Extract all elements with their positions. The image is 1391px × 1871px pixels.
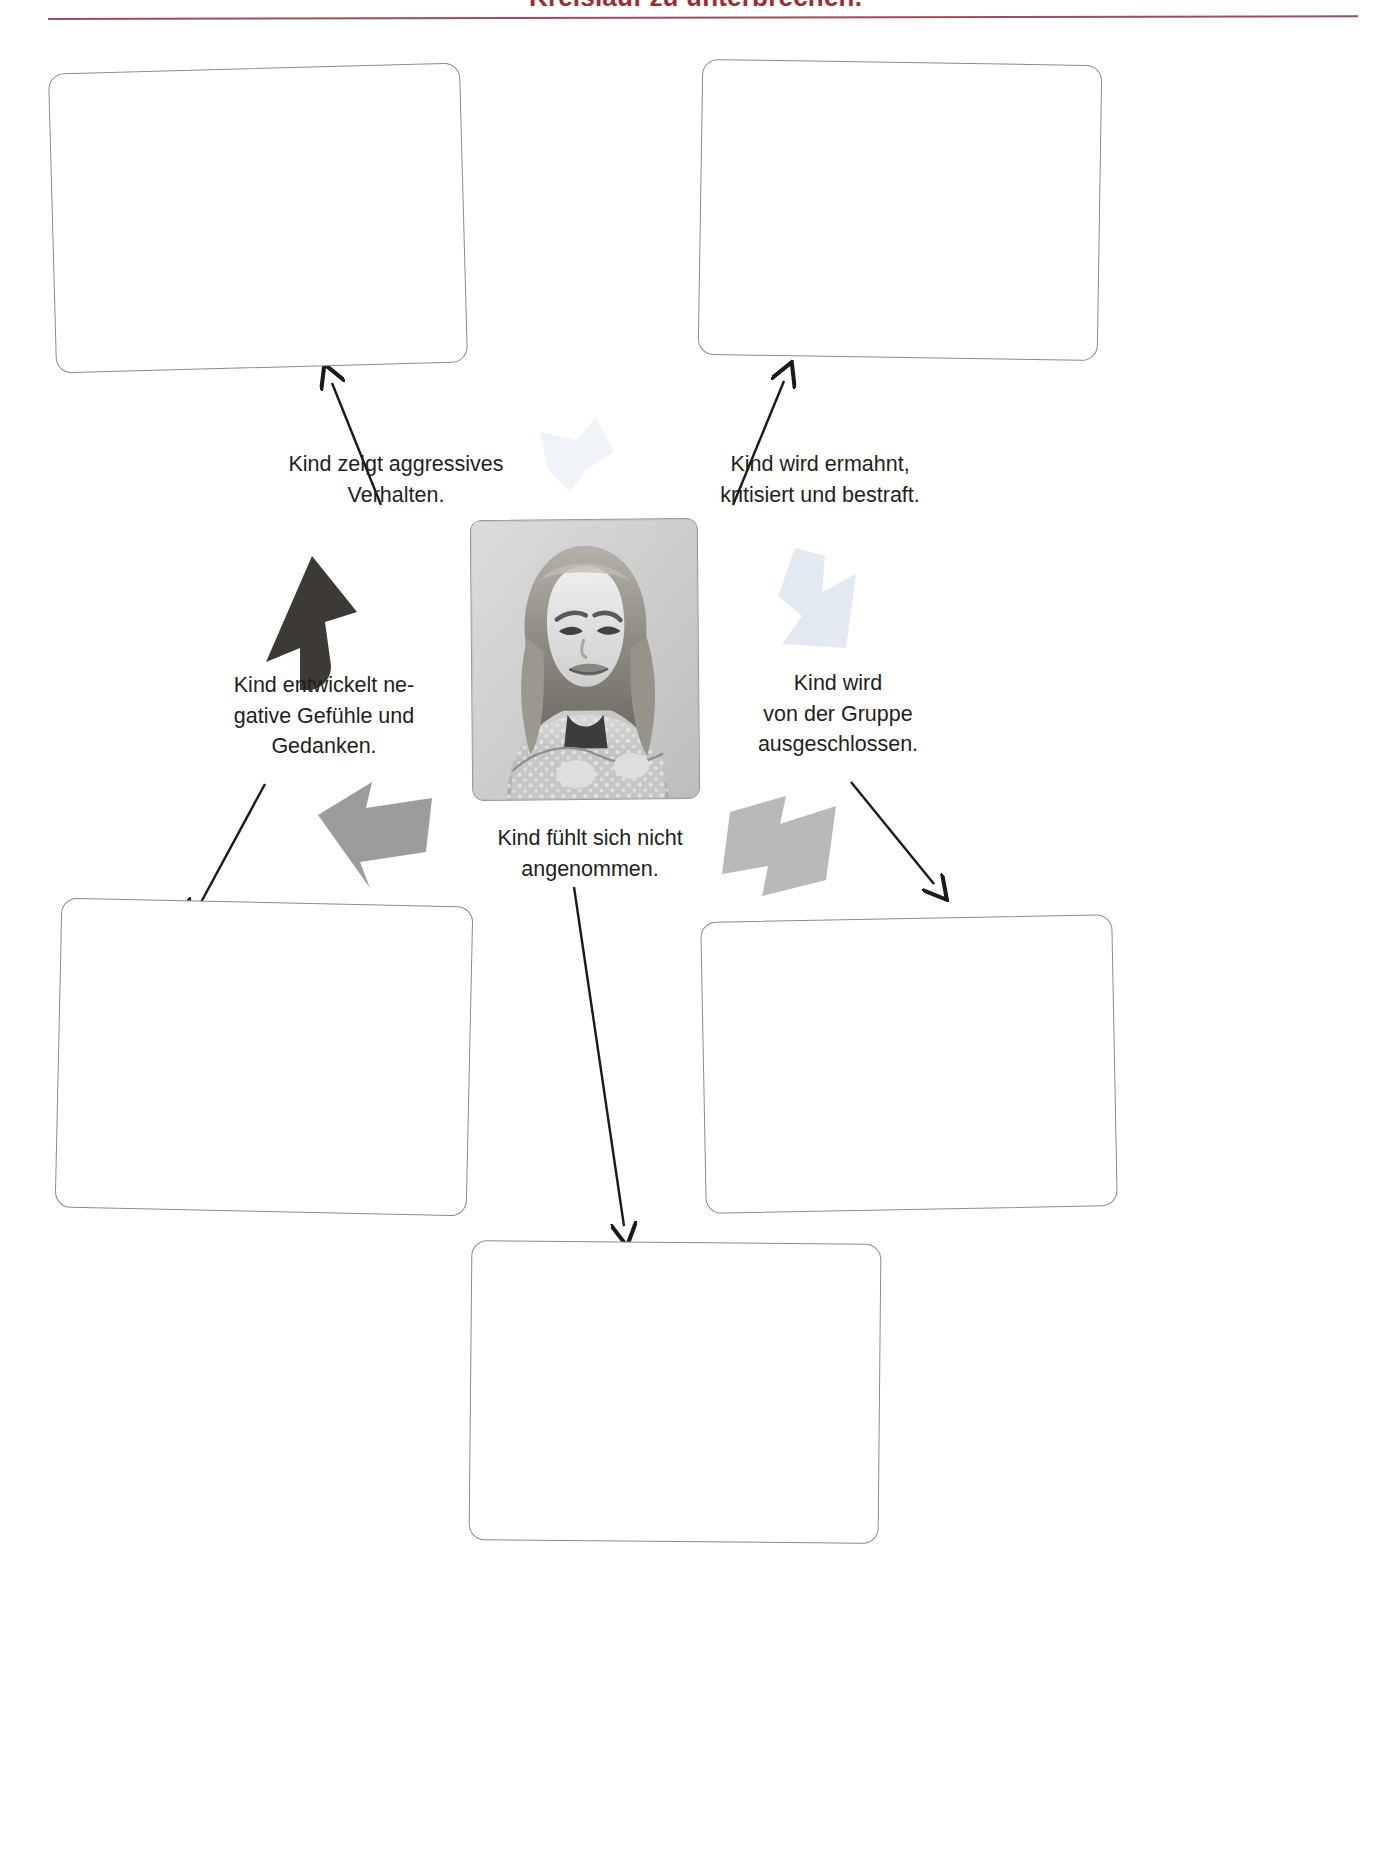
pouting-girl-photo [470, 518, 700, 801]
arrow-to-bottom-left-box [199, 784, 265, 906]
label-line: Verhalten. [236, 480, 556, 511]
label-line: Kind zeigt aggressives [236, 449, 556, 480]
label-ermahnt-kritisiert: Kind wird ermahnt, kritisiert und bestra… [640, 449, 1000, 510]
cycle-arrow-down-right [778, 548, 856, 648]
label-line: von der Gruppe [722, 699, 954, 730]
label-nicht-angenommen: Kind fühlt sich nicht angenommen. [450, 823, 730, 884]
arrow-to-bottom-right-box [851, 782, 934, 884]
cycle-arrow-left-from-right [722, 796, 836, 896]
label-line: Gedanken. [213, 731, 435, 762]
label-line: Kind wird [722, 668, 954, 699]
arrow-to-bottom-center-box [574, 887, 624, 1226]
answer-box-top-right[interactable] [698, 59, 1103, 361]
worksheet-page: Kreislauf zu unterbrechen. [0, 0, 1391, 1871]
label-gruppe-ausgeschlossen: Kind wird von der Gruppe ausgeschlossen. [722, 668, 954, 760]
label-line: Kind entwickelt ne- [213, 670, 435, 701]
answer-box-top-left[interactable] [48, 62, 468, 373]
label-line: angenommen. [450, 854, 730, 885]
cycle-arrow-left-lower [318, 782, 432, 888]
answer-box-bottom-left[interactable] [55, 898, 474, 1217]
page-title: Kreislauf zu unterbrechen. [0, 0, 1391, 13]
label-line: gative Gefühle und [213, 701, 435, 732]
label-line: kritisiert und bestraft. [640, 480, 1000, 511]
label-aggressives-verhalten: Kind zeigt aggressives Verhalten. [236, 449, 556, 510]
answer-box-bottom-center[interactable] [469, 1240, 882, 1544]
label-line: Kind wird ermahnt, [640, 449, 1000, 480]
answer-box-bottom-right[interactable] [700, 914, 1118, 1214]
header-divider [48, 15, 1358, 20]
label-line: ausgeschlossen. [722, 729, 954, 760]
label-line: Kind fühlt sich nicht [450, 823, 730, 854]
label-negative-gefuehle: Kind entwickelt ne- gative Gefühle und G… [213, 670, 435, 762]
